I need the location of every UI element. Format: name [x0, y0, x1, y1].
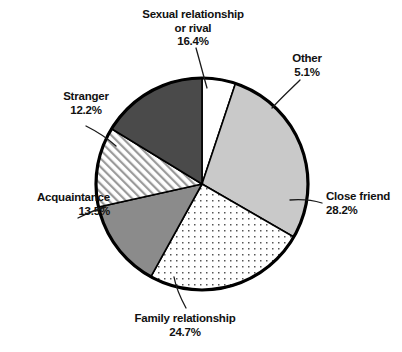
slice-percent-close-friend: 28.2% [326, 204, 400, 218]
slice-percent-other: 5.1% [272, 66, 342, 80]
slice-label-other: Other 5.1% [272, 52, 342, 79]
pie-chart: Sexual relationship or rival 16.4% Other… [0, 0, 402, 352]
slice-label-sexual-line2: or rival [175, 22, 212, 34]
slice-label-sexual-line1: Sexual relationship [142, 8, 244, 20]
slice-label-family-line1: Family relationship [134, 312, 235, 324]
slice-label-acquaintance: Acquaintance 13.5% [6, 191, 110, 218]
leader-line-other [272, 80, 300, 108]
slice-label-other-line1: Other [292, 52, 322, 64]
slice-percent-acquaintance: 13.5% [6, 205, 110, 219]
slice-label-close-friend: Close friend 28.2% [326, 190, 400, 217]
slice-percent-family: 24.7% [110, 326, 260, 340]
slice-percent-stranger: 12.2% [42, 104, 130, 118]
slice-label-acquaintance-line1: Acquaintance [37, 191, 110, 203]
slice-label-stranger-line1: Stranger [63, 90, 109, 102]
slice-label-family-relationship: Family relationship 24.7% [110, 312, 260, 339]
slice-label-sexual-relationship: Sexual relationship or rival 16.4% [118, 8, 268, 49]
slice-label-close-friend-line1: Close friend [326, 190, 390, 202]
slice-label-stranger: Stranger 12.2% [42, 90, 130, 117]
slice-percent-sexual: 16.4% [118, 35, 268, 49]
